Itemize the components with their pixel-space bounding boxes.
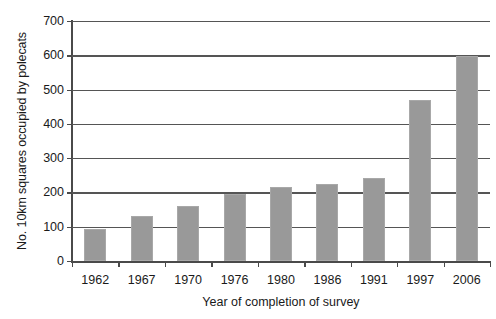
bar-chart-figure: No. 10km squares occupied by polecats 01…: [0, 0, 496, 319]
bar-slot: [351, 21, 397, 261]
bar[interactable]: [363, 178, 385, 261]
y-tick-label: 400: [43, 118, 64, 131]
bar-slot: [118, 21, 164, 261]
bar-slot: [397, 21, 443, 261]
x-tick-mark: [444, 261, 445, 267]
bar-slot: [444, 21, 490, 261]
bar[interactable]: [177, 206, 199, 261]
bar-slot: [165, 21, 211, 261]
bar-slot: [211, 21, 257, 261]
y-tick-label: 300: [43, 152, 64, 165]
y-axis-title: No. 10km squares occupied by polecats: [11, 11, 33, 271]
y-tick-label: 0: [57, 255, 64, 268]
bar[interactable]: [224, 194, 246, 261]
bar[interactable]: [456, 56, 478, 261]
bar[interactable]: [84, 229, 106, 261]
plot-area: 0100200300400500600700 19621967197019761…: [72, 21, 490, 261]
bar[interactable]: [316, 184, 338, 261]
y-tick-label: 500: [43, 83, 64, 96]
bar-slot: [72, 21, 118, 261]
bar[interactable]: [270, 187, 292, 261]
x-tick-mark: [118, 261, 119, 267]
x-tick-mark: [397, 261, 398, 267]
bar[interactable]: [409, 100, 431, 261]
y-tick-label: 200: [43, 186, 64, 199]
x-tick-label: 2006: [437, 273, 496, 287]
bar-slot: [304, 21, 350, 261]
x-tick-mark: [165, 261, 166, 267]
x-tick-mark: [304, 261, 305, 267]
y-tick-label: 100: [43, 220, 64, 233]
y-tick-label: 700: [43, 15, 64, 28]
x-tick-mark: [258, 261, 259, 267]
x-axis-line: [71, 261, 490, 263]
bar[interactable]: [131, 216, 153, 261]
x-tick-mark: [490, 261, 491, 267]
x-tick-mark: [72, 261, 73, 267]
bar-slot: [258, 21, 304, 261]
x-tick-mark: [211, 261, 212, 267]
y-tick-label: 600: [43, 49, 64, 62]
bars-layer: [72, 21, 490, 261]
x-axis-title: Year of completion of survey: [72, 295, 490, 309]
x-tick-mark: [351, 261, 352, 267]
